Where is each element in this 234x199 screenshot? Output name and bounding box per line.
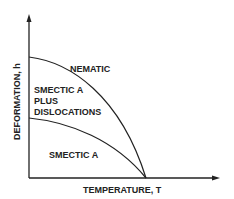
y-axis-label: DEFORMATION, h [12,63,22,140]
y-axis-arrow-icon [27,14,32,22]
region-smectic-plus-dislocations-2: PLUS [34,96,58,106]
phase-diagram: NEMATIC SMECTIC A PLUS DISLOCATIONS SMEC… [0,0,234,199]
x-axis-arrow-icon [212,176,220,181]
lower-phase-boundary [29,118,146,178]
region-smectic-a: SMECTIC A [49,150,99,160]
region-smectic-plus-dislocations-3: DISLOCATIONS [34,107,101,117]
region-smectic-plus-dislocations-1: SMECTIC A [34,85,84,95]
region-nematic: NEMATIC [70,64,111,74]
x-axis-label: TEMPERATURE, T [83,185,162,195]
